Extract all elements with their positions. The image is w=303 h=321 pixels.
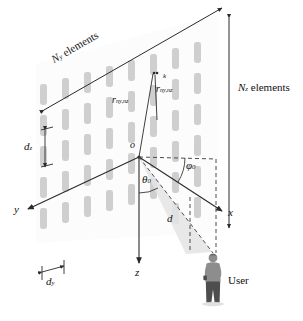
dz-subscript: z <box>30 144 33 151</box>
origin-symbol: o <box>130 139 135 150</box>
theta-subscript: 0 <box>147 177 150 184</box>
diagram-svg <box>0 0 303 321</box>
r-vector-label: rny,nz <box>112 95 128 105</box>
z-axis-label: z <box>135 267 139 278</box>
origin-label: o <box>130 140 135 150</box>
theta-angle-label: θ0 <box>142 174 151 185</box>
dy-subscript: y <box>52 279 55 286</box>
y-symbol: y <box>14 203 19 215</box>
dz-label: dz <box>24 141 32 152</box>
rk-superscript-label: k <box>163 70 166 80</box>
rk-subscript: ny,nz <box>160 86 173 93</box>
user-text: User <box>228 274 249 286</box>
nz-word: elements <box>251 81 290 93</box>
x-axis-label: x <box>228 207 233 218</box>
distance-label: d <box>167 213 173 224</box>
rk-superscript: k <box>163 72 166 80</box>
phi-subscript: 0 <box>192 163 195 170</box>
phi-angle-label: φ0 <box>186 160 196 171</box>
r-subscript: ny,nz <box>116 97 129 104</box>
user-label: User <box>228 275 249 286</box>
x-symbol: x <box>228 206 233 218</box>
y-axis-label: y <box>14 204 19 215</box>
nz-elements-label: Nz elements <box>238 82 290 93</box>
d-symbol: d <box>167 212 173 224</box>
figure-canvas: Ny elements Nz elements dz dy rny,nz rny… <box>0 0 303 321</box>
user-figure <box>202 254 224 307</box>
rk-vector-label: rny,nz <box>156 84 172 94</box>
dy-label: dy <box>46 276 55 287</box>
z-symbol: z <box>135 266 139 278</box>
